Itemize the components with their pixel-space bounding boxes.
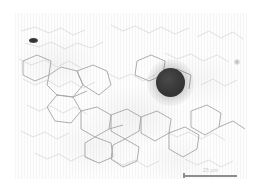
dark-inclusion xyxy=(156,68,185,97)
cell-boundary-network xyxy=(15,13,247,179)
cell-outlines-strong xyxy=(23,55,245,167)
tissue-background-mottle xyxy=(15,13,247,179)
micrograph-figure: 25 µm xyxy=(0,0,262,191)
scale-bar-label: 25 µm xyxy=(184,167,237,173)
gray-speck-right xyxy=(234,59,240,65)
dark-inclusion-core xyxy=(156,68,185,97)
cell-outlines-faint xyxy=(19,25,243,167)
scale-bar: 25 µm xyxy=(184,165,237,177)
scale-bar-line xyxy=(184,175,237,177)
micrograph-image: 25 µm xyxy=(15,13,247,179)
dark-artifact-upper-left xyxy=(29,38,38,43)
scale-bar-end-cap xyxy=(183,173,185,178)
scan-line-texture xyxy=(15,13,247,179)
